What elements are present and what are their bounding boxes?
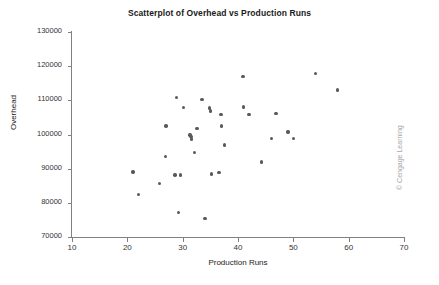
data-point	[217, 171, 220, 174]
data-point	[270, 137, 273, 140]
x-tick	[349, 238, 350, 242]
y-tick-label: 100000	[37, 129, 62, 138]
data-point	[314, 72, 317, 75]
y-tick: 80000	[68, 203, 72, 204]
data-point	[179, 173, 182, 176]
x-tick-label: 20	[123, 243, 132, 252]
data-point	[137, 193, 140, 196]
data-point	[200, 98, 203, 101]
data-point	[131, 170, 134, 173]
data-point	[242, 105, 245, 108]
x-tick-label: 70	[400, 243, 409, 252]
y-tick-label: 130000	[37, 26, 62, 35]
data-point	[220, 124, 223, 127]
y-tick: 110000	[68, 100, 72, 101]
data-point	[274, 112, 277, 115]
data-point	[209, 109, 212, 112]
x-tick-label: 60	[344, 243, 353, 252]
y-tick: 130000	[68, 32, 72, 33]
data-point	[241, 75, 244, 78]
scatterplot-figure: Scatterplot of Overhead vs Production Ru…	[0, 0, 439, 285]
data-point	[177, 211, 180, 214]
data-point	[158, 182, 161, 185]
data-point	[336, 88, 339, 91]
data-point	[223, 143, 226, 146]
chart-title: Scatterplot of Overhead vs Production Ru…	[0, 8, 439, 18]
y-axis-title: Overhead	[9, 78, 18, 148]
data-point	[164, 155, 167, 158]
data-point	[175, 96, 178, 99]
data-point	[173, 173, 176, 176]
data-point	[292, 137, 295, 140]
x-tick	[238, 238, 239, 242]
x-tick-label: 10	[68, 243, 77, 252]
x-tick-label: 40	[234, 243, 243, 252]
y-tick-label: 70000	[41, 231, 62, 240]
data-point	[203, 217, 206, 220]
y-tick-label: 120000	[37, 60, 62, 69]
data-point	[182, 106, 185, 109]
plot-area: 700008000090000100000110000120000130000	[72, 32, 404, 237]
x-tick	[404, 238, 405, 242]
x-tick	[72, 238, 73, 242]
copyright-notice: © Cengage Learning	[396, 100, 403, 190]
y-tick: 120000	[68, 66, 72, 67]
x-tick	[183, 238, 184, 242]
x-axis-title: Production Runs	[72, 258, 404, 267]
y-tick: 90000	[68, 169, 72, 170]
data-point	[219, 113, 222, 116]
x-tick-label: 30	[178, 243, 187, 252]
data-point	[260, 160, 263, 163]
y-tick-label: 80000	[41, 197, 62, 206]
data-point	[164, 124, 167, 127]
x-tick	[293, 238, 294, 242]
data-point	[190, 137, 193, 140]
data-point	[193, 151, 196, 154]
y-tick: 100000	[68, 135, 72, 136]
y-tick-label: 90000	[41, 163, 62, 172]
data-point	[195, 127, 198, 130]
data-point	[210, 172, 213, 175]
x-tick-label: 50	[289, 243, 298, 252]
x-axis-ticks: 10203040506070	[71, 238, 405, 258]
data-point	[286, 130, 289, 133]
data-point	[247, 113, 250, 116]
x-tick	[127, 238, 128, 242]
y-tick-label: 110000	[38, 94, 62, 103]
